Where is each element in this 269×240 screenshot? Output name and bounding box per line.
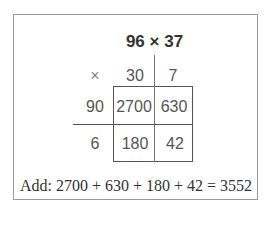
cell-630: 630 <box>154 98 194 116</box>
multiply-symbol: × <box>75 67 115 85</box>
row-header-6: 6 <box>75 135 115 153</box>
sum-equation: Add: 2700 + 630 + 180 + 42 = 3552 <box>20 177 252 195</box>
row-header-90: 90 <box>75 98 115 116</box>
problem-title: 96 × 37 <box>0 32 269 52</box>
column-header-30: 30 <box>115 67 155 85</box>
cell-2700: 2700 <box>113 98 155 116</box>
cell-180: 180 <box>115 135 155 153</box>
column-header-7: 7 <box>153 67 193 85</box>
cell-42: 42 <box>155 135 195 153</box>
horizontal-divider <box>73 124 193 125</box>
